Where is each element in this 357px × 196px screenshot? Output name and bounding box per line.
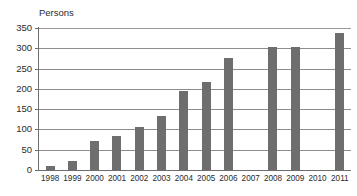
x-axis-tick-label: 2009: [284, 174, 306, 184]
x-axis-tick-label: 2002: [128, 174, 150, 184]
x-axis-tick-label: 2004: [173, 174, 195, 184]
x-axis-tick-label: 2001: [106, 174, 128, 184]
y-axis-tick: [35, 170, 39, 171]
x-axis-tick-label: 2005: [195, 174, 217, 184]
bar-slot: [306, 28, 328, 170]
bar[interactable]: [202, 82, 211, 170]
bar-slot: [284, 28, 306, 170]
bar-slot: [150, 28, 172, 170]
bar[interactable]: [90, 141, 99, 170]
bar-chart-figure: Persons 050100150200250300350 1998199920…: [0, 0, 357, 196]
bar-slot: [217, 28, 239, 170]
bar[interactable]: [224, 58, 233, 170]
y-axis-tick-label: 350: [6, 23, 32, 33]
bar-slot: [173, 28, 195, 170]
bar-slot: [84, 28, 106, 170]
x-axis-tick-label: 1999: [61, 174, 83, 184]
bar[interactable]: [179, 91, 188, 170]
bar-slot: [39, 28, 61, 170]
x-axis-tick-label: 2003: [150, 174, 172, 184]
bar-slot: [128, 28, 150, 170]
bar[interactable]: [157, 116, 166, 170]
y-axis-tick-label: 200: [6, 84, 32, 94]
bar-slot: [262, 28, 284, 170]
bar[interactable]: [135, 127, 144, 170]
y-axis-tick-label: 150: [6, 104, 32, 114]
bar[interactable]: [46, 166, 55, 170]
plot-area: 050100150200250300350: [39, 28, 351, 170]
x-axis-tick-label: 2011: [329, 174, 351, 184]
bar-slot: [61, 28, 83, 170]
gridline: [39, 170, 351, 171]
bar-slot: [329, 28, 351, 170]
x-axis-tick-label: 2007: [240, 174, 262, 184]
y-axis-tick-label: 0: [6, 165, 32, 175]
bar-slot: [106, 28, 128, 170]
bar[interactable]: [268, 47, 277, 170]
y-axis-tick-label: 50: [6, 145, 32, 155]
bar-slot: [240, 28, 262, 170]
x-axis-tick-label: 1998: [39, 174, 61, 184]
bar[interactable]: [291, 47, 300, 170]
x-axis-tick-label: 2008: [262, 174, 284, 184]
x-axis-tick-label: 2000: [84, 174, 106, 184]
y-axis-tick-label: 250: [6, 64, 32, 74]
y-axis-tick-label: 100: [6, 124, 32, 134]
bar[interactable]: [335, 33, 344, 170]
bar[interactable]: [68, 161, 77, 170]
y-axis-title: Persons: [39, 7, 74, 18]
bar[interactable]: [112, 136, 121, 170]
x-axis-tick-label: 2006: [217, 174, 239, 184]
bar-slot: [195, 28, 217, 170]
x-axis-tick-label: 2010: [306, 174, 328, 184]
x-axis-labels: 1998199920002001200220032004200520062007…: [39, 174, 351, 188]
y-axis-tick-label: 300: [6, 43, 32, 53]
